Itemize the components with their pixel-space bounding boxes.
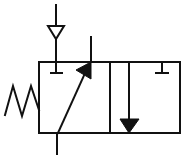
valve-diagram: [0, 0, 191, 161]
source-triangle-icon: [48, 26, 64, 39]
right-blocked-port: [156, 62, 168, 73]
spring-icon: [5, 86, 39, 116]
left-blocked-port: [51, 62, 62, 73]
flow-arrow-shaft: [58, 71, 86, 133]
supply-port: [48, 5, 64, 62]
right-flow-arrow: [120, 62, 139, 133]
down-arrowhead-icon: [120, 119, 139, 133]
